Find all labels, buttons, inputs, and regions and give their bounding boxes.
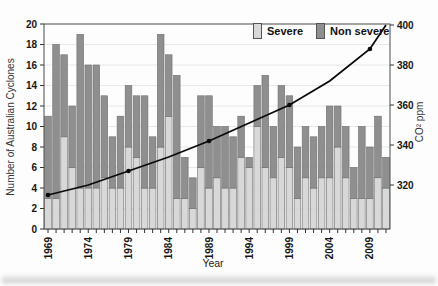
bar-nonsevere-1980 [133, 96, 140, 158]
x-tick-label-1974: 1974 [83, 237, 94, 260]
bar-nonsevere-1969 [45, 116, 52, 198]
bar-nonsevere-1974 [85, 65, 92, 188]
y-tick-label-left: 4 [31, 183, 37, 194]
bar-severe-1988 [198, 168, 205, 230]
bar-severe-1991 [222, 188, 229, 229]
bar-nonsevere-1976 [101, 96, 108, 178]
bar-severe-1985 [173, 198, 180, 229]
bar-nonsevere-1985 [173, 75, 180, 198]
y-tick-label-right: 360 [397, 100, 414, 111]
bar-nonsevere-2000 [294, 147, 301, 198]
co2-marker-1979 [126, 169, 131, 174]
y-tick-label-right: 380 [397, 60, 414, 71]
bar-nonsevere-1992 [230, 137, 237, 188]
legend-swatch-nonsevere-icon [316, 23, 325, 39]
x-tick-label-1969: 1969 [43, 237, 54, 260]
bar-severe-2011 [383, 188, 390, 229]
y-tick-label-right: 320 [397, 180, 414, 191]
bar-nonsevere-1996 [262, 75, 269, 167]
y-axis-title-right: CO² ppm [414, 102, 425, 143]
bar-severe-1977 [109, 188, 116, 229]
y-tick-label-left: 18 [26, 39, 38, 50]
bar-nonsevere-2008 [359, 127, 366, 199]
page-shadow [2, 274, 436, 283]
bar-nonsevere-1984 [165, 55, 172, 117]
bar-severe-2009 [367, 198, 374, 229]
bar-severe-1975 [93, 188, 100, 229]
bar-nonsevere-1987 [190, 178, 197, 209]
bar-severe-1969 [45, 198, 52, 229]
bar-severe-2006 [342, 178, 349, 229]
bar-severe-1979 [125, 147, 132, 229]
bar-severe-1986 [181, 198, 188, 229]
bar-nonsevere-1970 [53, 45, 60, 199]
legend-item-nonsevere: Non severe [316, 23, 389, 39]
bar-nonsevere-1997 [270, 127, 277, 178]
bar-severe-2005 [334, 147, 341, 229]
bar-nonsevere-1983 [157, 34, 164, 147]
bar-severe-1981 [141, 188, 148, 229]
bar-nonsevere-1993 [238, 116, 245, 157]
bar-nonsevere-1990 [214, 127, 221, 178]
bar-nonsevere-2009 [367, 147, 374, 198]
bar-nonsevere-1972 [69, 106, 76, 168]
bar-severe-1998 [278, 157, 285, 229]
bar-severe-1970 [53, 198, 60, 229]
bar-severe-2003 [318, 178, 325, 229]
bar-nonsevere-1998 [278, 86, 285, 158]
legend-label-nonsevere: Non severe [330, 25, 389, 37]
y-axis-title-left: Number of Australian Cyclones [5, 58, 16, 195]
legend: Severe Non severe [253, 23, 389, 39]
chart-figure: 0246810121416182032034036038040019691974… [0, 0, 438, 286]
y-tick-label-right: 400 [397, 20, 414, 31]
bar-nonsevere-1971 [61, 55, 68, 137]
x-tick-label-1984: 1984 [163, 237, 174, 260]
bar-severe-2000 [294, 198, 301, 229]
bar-nonsevere-1986 [181, 157, 188, 198]
y-tick-label-left: 8 [31, 142, 37, 153]
x-tick-label-1994: 1994 [244, 237, 255, 260]
bar-nonsevere-1979 [125, 86, 132, 148]
y-tick-label-left: 16 [26, 60, 38, 71]
bar-nonsevere-2006 [342, 127, 349, 178]
bar-severe-1972 [69, 168, 76, 230]
co2-marker-2009 [368, 47, 373, 52]
bar-severe-2008 [359, 198, 366, 229]
bar-nonsevere-2010 [375, 116, 382, 178]
bar-nonsevere-1978 [117, 116, 124, 188]
bar-severe-1997 [270, 178, 277, 229]
bar-severe-1982 [149, 188, 156, 229]
bar-severe-2002 [310, 188, 317, 229]
y-tick-label-right: 340 [397, 140, 414, 151]
bar-nonsevere-1973 [77, 34, 84, 188]
bar-severe-1978 [117, 188, 124, 229]
bar-nonsevere-2003 [318, 127, 325, 178]
bar-nonsevere-2002 [310, 137, 317, 188]
x-axis-title: Year [202, 257, 224, 269]
bar-nonsevere-2005 [334, 106, 341, 147]
bar-severe-1999 [286, 168, 293, 230]
y-tick-label-left: 2 [31, 203, 37, 214]
y-tick-label-left: 10 [26, 121, 38, 132]
bar-severe-2010 [375, 178, 382, 229]
x-tick-label-1989: 1989 [204, 237, 215, 260]
bar-nonsevere-2007 [350, 168, 357, 199]
x-tick-label-1979: 1979 [123, 237, 134, 260]
bar-nonsevere-1977 [109, 137, 116, 188]
x-tick-label-2004: 2004 [324, 237, 335, 260]
bar-severe-1990 [214, 178, 221, 229]
bar-severe-1994 [246, 168, 253, 230]
bar-severe-1974 [85, 188, 92, 229]
bar-severe-1971 [61, 137, 68, 229]
bar-nonsevere-1994 [246, 157, 253, 167]
co2-marker-1999 [287, 103, 292, 108]
bar-severe-1984 [165, 116, 172, 229]
chart-canvas: 0246810121416182032034036038040019691974… [0, 0, 438, 286]
bar-severe-1996 [262, 168, 269, 230]
co2-marker-1989 [207, 139, 212, 144]
bar-severe-1987 [190, 209, 197, 230]
y-tick-label-left: 14 [26, 80, 38, 91]
y-tick-label-left: 0 [31, 224, 37, 235]
bar-severe-1992 [230, 188, 237, 229]
co2-marker-1969 [46, 193, 51, 198]
